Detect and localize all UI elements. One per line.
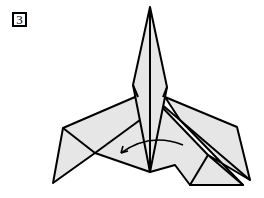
left-wing <box>53 97 150 183</box>
origami-diagram <box>0 0 264 198</box>
